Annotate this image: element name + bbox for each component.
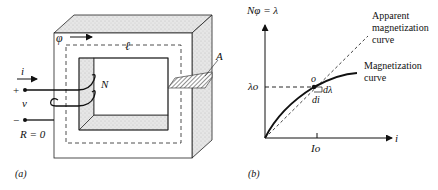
mag-label-2: curve	[364, 72, 387, 83]
plus-sign: +	[13, 84, 19, 96]
point-label: o	[311, 73, 316, 84]
voltage-symbol: v	[22, 97, 27, 109]
d-i-label: di	[312, 94, 320, 105]
io-label: Io	[310, 142, 321, 154]
length-symbol: ℓ	[125, 39, 130, 53]
figure-root: φ ℓ A N i + v − R = 0 (a) Nφ = λ i λo Io…	[0, 0, 438, 190]
terminal-plus	[23, 88, 27, 92]
figure-a-label: (a)	[15, 168, 27, 180]
flux-symbol: φ	[56, 31, 63, 45]
apparent-label-3: curve	[372, 34, 395, 45]
diagram-canvas: φ ℓ A N i + v − R = 0 (a) Nφ = λ i λo Io…	[0, 0, 438, 190]
terminal-minus	[23, 118, 27, 122]
lambda-o-label: λo	[247, 80, 259, 92]
area-symbol: A	[215, 50, 223, 62]
figure-b-label: (b)	[248, 168, 260, 180]
y-axis-label: Nφ = λ	[246, 4, 278, 16]
apparent-label-2: magnetization	[372, 22, 429, 33]
current-symbol: i	[21, 65, 24, 77]
d-lambda-label: dλ	[323, 84, 333, 95]
magnetic-core	[54, 15, 218, 158]
minus-sign: −	[13, 114, 19, 126]
apparent-label-1: Apparent	[372, 10, 409, 21]
turns-symbol: N	[100, 78, 109, 90]
resistance-label: R = 0	[19, 128, 46, 140]
x-axis-label: i	[395, 132, 398, 144]
mag-label-1: Magnetization	[364, 60, 422, 71]
